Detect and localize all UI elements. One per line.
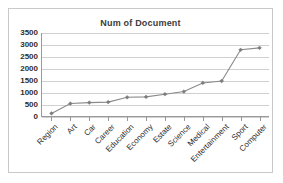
x-tick-mark bbox=[70, 117, 71, 121]
data-point-marker bbox=[50, 112, 54, 116]
y-tick-label: 1000 bbox=[20, 89, 38, 97]
data-point-marker bbox=[106, 100, 110, 104]
y-tick-label: 0 bbox=[34, 113, 38, 121]
x-tick-label: Art bbox=[66, 123, 79, 136]
chart-title: Num of Document bbox=[9, 18, 272, 28]
y-tick-label: 500 bbox=[25, 101, 38, 109]
chart-container: Num of Document 050010001500200025003000… bbox=[8, 8, 273, 173]
x-tick-mark bbox=[108, 117, 109, 121]
data-point-marker bbox=[125, 95, 129, 99]
y-tick-label: 1500 bbox=[20, 77, 38, 85]
x-tick-mark bbox=[89, 117, 90, 121]
x-tick-mark bbox=[51, 117, 52, 121]
data-point-marker bbox=[144, 95, 148, 99]
data-point-marker bbox=[163, 92, 167, 96]
series-line bbox=[51, 48, 259, 114]
data-point-marker bbox=[182, 90, 186, 94]
y-tick-label: 2000 bbox=[20, 65, 38, 73]
x-tick-mark bbox=[127, 117, 128, 121]
gridline bbox=[42, 117, 269, 118]
data-series bbox=[42, 33, 269, 117]
plot-area: 0500100015002000250030003500 RegionArtCa… bbox=[42, 33, 269, 117]
x-tick-mark bbox=[184, 117, 185, 121]
data-point-marker bbox=[87, 101, 91, 105]
x-tick-label: Region bbox=[37, 123, 61, 147]
y-tick-label: 2500 bbox=[20, 53, 38, 61]
y-tick-label: 3000 bbox=[20, 41, 38, 49]
x-tick-mark bbox=[165, 117, 166, 121]
data-point-marker bbox=[258, 46, 262, 50]
data-point-marker bbox=[68, 102, 72, 106]
y-tick-label: 3500 bbox=[20, 29, 38, 37]
x-tick-mark bbox=[203, 117, 204, 121]
x-tick-mark bbox=[241, 117, 242, 121]
x-tick-mark bbox=[260, 117, 261, 121]
x-tick-mark bbox=[146, 117, 147, 121]
data-point-marker bbox=[201, 81, 205, 85]
x-tick-mark bbox=[222, 117, 223, 121]
